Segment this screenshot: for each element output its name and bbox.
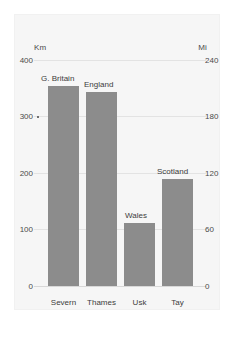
category-label-usk: Usk (119, 298, 160, 307)
right-tick-label-240: 240 (205, 56, 229, 65)
right-tick-label-60: 60 (205, 225, 229, 234)
left-tick-label-0: 0 (9, 282, 33, 291)
left-tick-label-100: 100 (9, 225, 33, 234)
category-label-severn: Severn (43, 298, 84, 307)
bar-annotation-wales: Wales (125, 211, 147, 220)
right-tick-label-0: 0 (205, 282, 229, 291)
bar-severn[interactable] (48, 86, 79, 286)
left-tick-label-200: 200 (9, 169, 33, 178)
bar-annotation-scotland: Scotland (157, 167, 188, 176)
left-tick-label-300: 300 (9, 112, 33, 121)
chart-panel: Km Mi 400 300 200 100 0 240 180 120 60 0 (14, 14, 220, 310)
category-label-tay: Tay (157, 298, 198, 307)
bar-thames[interactable] (86, 92, 117, 286)
axis-baseline (34, 286, 206, 287)
chart-page: Km Mi 400 300 200 100 0 240 180 120 60 0 (0, 0, 235, 339)
right-tick-label-120: 120 (205, 169, 229, 178)
left-tick-label-400: 400 (9, 56, 33, 65)
bar-annotation-g-britain: G. Britain (41, 74, 74, 83)
bar-usk[interactable] (124, 223, 155, 286)
bar-annotation-england: England (84, 80, 113, 89)
bar-tay[interactable] (162, 179, 193, 286)
right-tick-label-180: 180 (205, 112, 229, 121)
category-label-thames: Thames (81, 298, 122, 307)
gridline-400 (34, 60, 206, 61)
plot-area: Km Mi 400 300 200 100 0 240 180 120 60 0 (15, 15, 221, 311)
left-tick-mark-300 (37, 116, 39, 118)
right-axis-unit-label: Mi (198, 43, 207, 52)
left-axis-unit-label: Km (34, 43, 46, 52)
